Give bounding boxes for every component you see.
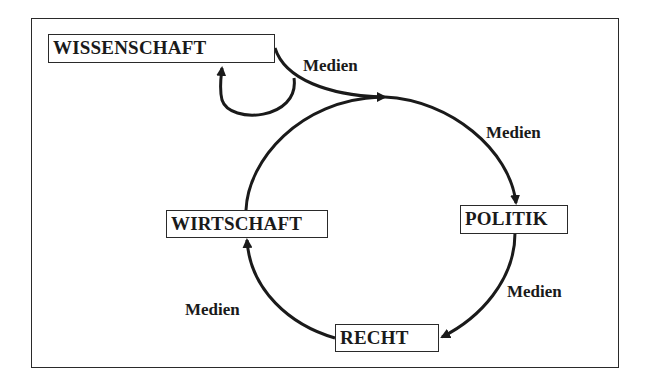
edge-label-top-right: Medien [486, 123, 541, 143]
edge-cycle-to-wissenschaft [220, 68, 294, 115]
node-recht: RECHT [335, 324, 439, 352]
edge-recht-to-wirtschaft [247, 240, 335, 338]
edge-label-bottom-left: Medien [185, 300, 240, 320]
node-wirtschaft: WIRTSCHAFT [166, 210, 328, 238]
node-wissenschaft: WISSENSCHAFT [48, 34, 275, 63]
edge-label-bottom-right: Medien [507, 282, 562, 302]
node-politik: POLITIK [460, 205, 568, 234]
edge-politik-to-recht [442, 233, 515, 337]
edge-label-top-left: Medien [303, 56, 358, 76]
edge-cycle-to-politik [385, 97, 516, 203]
